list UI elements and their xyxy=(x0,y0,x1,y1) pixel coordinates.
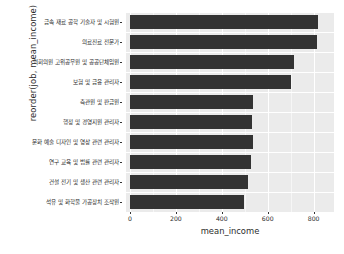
y-axis-tick-2: 의회의원 고위공무원 및 공공단체임원 xyxy=(18,52,122,72)
y-axis-tick-mark xyxy=(120,122,122,123)
y-axis-tick-label: 연구 교육 및 법률 관련 관리자 xyxy=(49,158,122,166)
bar-series xyxy=(126,12,334,212)
y-axis-tick-mark xyxy=(120,82,122,83)
plot-panel xyxy=(126,12,334,212)
bar xyxy=(130,35,317,49)
y-axis-tick-label: 의회의원 고위공무원 및 공공단체임원 xyxy=(33,58,122,66)
y-axis-tick-7: 연구 교육 및 법률 관련 관리자 xyxy=(18,152,122,172)
bar-slot xyxy=(126,52,334,72)
bar-slot xyxy=(126,12,334,32)
x-axis-title: mean_income xyxy=(126,226,334,236)
y-axis-tick-4: 측관원 및 판금원 xyxy=(18,92,122,112)
y-axis-tick-label: 문화 예술 디자인 및 영상 관련 관리자 xyxy=(32,138,122,146)
y-axis-tick-mark xyxy=(120,162,122,163)
x-axis-tick-label: 200 xyxy=(170,215,182,222)
y-axis-tick-mark xyxy=(120,142,122,143)
bar-slot xyxy=(126,132,334,152)
y-axis-tick-mark xyxy=(120,182,122,183)
x-axis-tick-label: 800 xyxy=(308,215,320,222)
bar-slot xyxy=(126,172,334,192)
y-axis-tick-5: 행정 및 경영지원 관리자 xyxy=(18,112,122,132)
x-axis-tick-label: 0 xyxy=(128,215,132,222)
bar-slot xyxy=(126,92,334,112)
y-axis-tick-0: 금속 재료 공학 기술자 및 시험원 xyxy=(18,12,122,32)
x-axis: 0200400600800 xyxy=(126,212,334,224)
y-axis-tick-mark xyxy=(120,22,122,23)
y-axis-tick-mark xyxy=(120,62,122,63)
y-axis-tick-1: 의료진료 전문가 xyxy=(18,32,122,52)
bar-chart: reorder(job, mean_income) 금속 재료 공학 기술자 및… xyxy=(0,0,344,254)
bar xyxy=(130,15,318,29)
y-axis-tick-mark xyxy=(120,202,122,203)
y-axis-tick-label: 금속 재료 공학 기술자 및 시험원 xyxy=(44,18,122,26)
y-axis-tick-3: 보험 및 금융 관리자 xyxy=(18,72,122,92)
y-axis-tick-mark xyxy=(120,102,122,103)
bar xyxy=(130,155,251,169)
bar-slot xyxy=(126,192,334,212)
bar xyxy=(130,75,291,89)
bar xyxy=(130,135,253,149)
y-axis-tick-6: 문화 예술 디자인 및 영상 관련 관리자 xyxy=(18,132,122,152)
y-axis-tick-label: 측관원 및 판금원 xyxy=(80,98,122,106)
bar-slot xyxy=(126,72,334,92)
bar xyxy=(130,175,248,189)
x-axis-tick-label: 600 xyxy=(262,215,274,222)
y-axis-tick-label: 건설 전기 및 생산 관련 관리자 xyxy=(49,178,122,186)
bar-slot xyxy=(126,112,334,132)
y-axis-tick-labels: 금속 재료 공학 기술자 및 시험원의료진료 전문가의회의원 고위공무원 및 공… xyxy=(18,12,122,212)
bar xyxy=(130,55,294,69)
bar-slot xyxy=(126,152,334,172)
y-axis-tick-9: 석유 및 화학물 가공장치 조작원 xyxy=(18,192,122,212)
y-axis-tick-label: 의료진료 전문가 xyxy=(82,38,122,46)
bar xyxy=(130,95,253,109)
y-axis-tick-mark xyxy=(120,42,122,43)
x-axis-tick-label: 400 xyxy=(216,215,228,222)
y-axis-tick-label: 행정 및 경영지원 관리자 xyxy=(63,118,122,126)
bar xyxy=(130,115,252,129)
y-axis-tick-label: 석유 및 화학물 가공장치 조작원 xyxy=(46,198,122,206)
bar-slot xyxy=(126,32,334,52)
bar xyxy=(130,195,244,209)
y-axis-tick-8: 건설 전기 및 생산 관련 관리자 xyxy=(18,172,122,192)
y-axis-tick-label: 보험 및 금융 관리자 xyxy=(73,78,122,86)
